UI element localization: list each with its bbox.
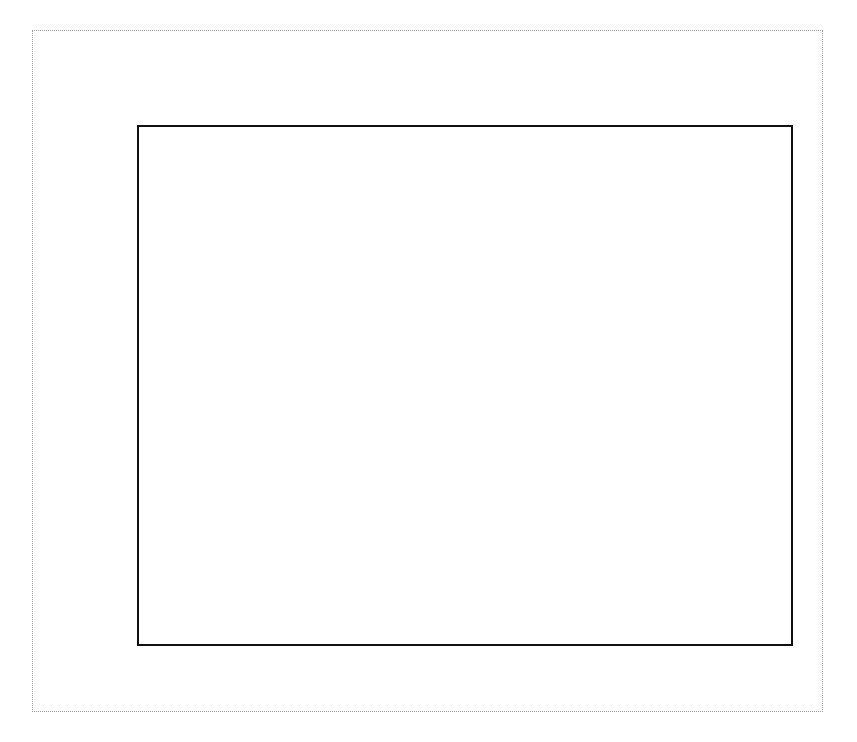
stacked-area-plot — [139, 127, 791, 644]
y-axis-labels — [26, 125, 132, 646]
figure-container — [0, 0, 857, 742]
plot-area — [137, 125, 793, 646]
x-axis-labels — [0, 657, 857, 703]
